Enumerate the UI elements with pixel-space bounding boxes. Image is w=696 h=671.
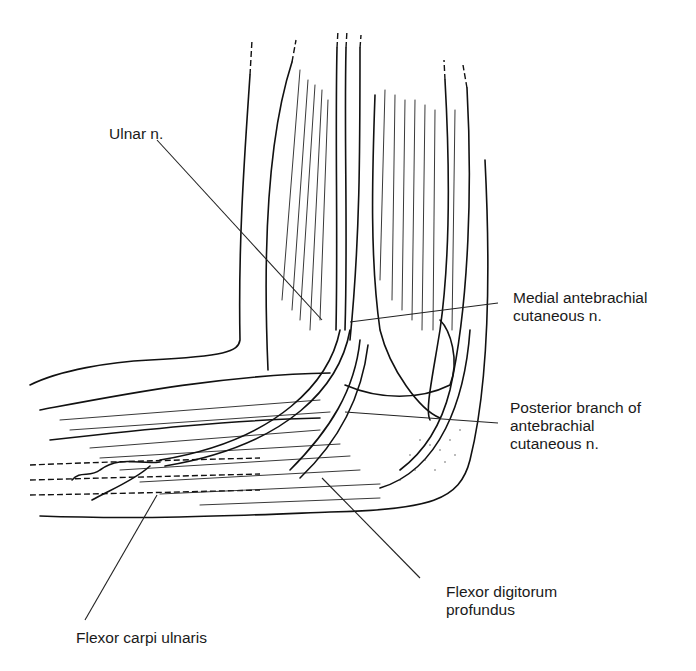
label-medial-antebrachial: Medial antebrachial cutaneous n. [513, 289, 647, 325]
label-flexor-carpi: Flexor carpi ulnaris [76, 629, 207, 647]
anatomy-figure: Ulnar n. Medial antebrachial cutaneous n… [0, 0, 696, 671]
leader-medial-antebrachial [350, 303, 498, 322]
leader-flexor-digitorum [322, 478, 420, 578]
upper-arm-outline-left [30, 75, 250, 385]
label-flexor-digitorum: Flexor digitorum profundus [446, 583, 557, 619]
leader-flexor-carpi [85, 495, 157, 620]
label-ulnar-n: Ulnar n. [109, 125, 163, 143]
leader-posterior-branch [345, 412, 498, 423]
label-posterior-branch: Posterior branch of antebrachial cutaneo… [510, 399, 641, 453]
elbow-drawing [0, 0, 696, 671]
